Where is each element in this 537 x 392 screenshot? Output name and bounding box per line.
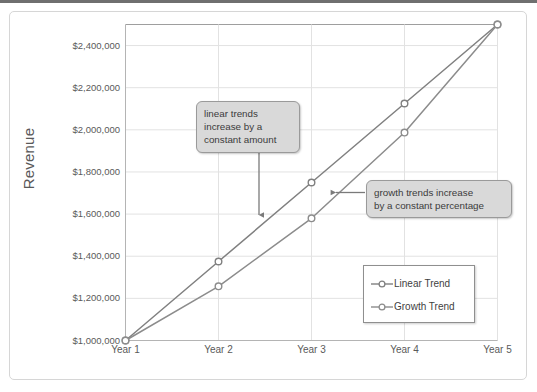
legend-marker-line-icon: [370, 302, 394, 312]
data-point-marker: [215, 283, 222, 290]
data-point-marker: [494, 21, 501, 28]
chart-legend[interactable]: Linear Trend Growth Trend: [363, 265, 475, 323]
legend-label-linear-trend: Linear Trend: [394, 278, 450, 289]
data-point-marker: [308, 179, 315, 186]
legend-item-linear-trend[interactable]: Linear Trend: [370, 272, 474, 295]
growth-trend-annotation: growth trends increase by a constant per…: [366, 180, 512, 218]
data-point-marker: [401, 100, 408, 107]
data-point-marker: [401, 129, 408, 136]
data-point-marker: [122, 337, 129, 344]
chart-container: Revenue $1,000,000$1,200,000$1,400,000$1…: [0, 0, 537, 392]
data-point-marker: [215, 258, 222, 265]
linear-trend-annotation: linear trends increase by a constant amo…: [196, 101, 300, 153]
data-point-marker: [308, 215, 315, 222]
legend-label-growth-trend: Growth Trend: [394, 301, 455, 312]
legend-item-growth-trend[interactable]: Growth Trend: [370, 295, 474, 318]
legend-marker-line-icon: [370, 279, 394, 289]
